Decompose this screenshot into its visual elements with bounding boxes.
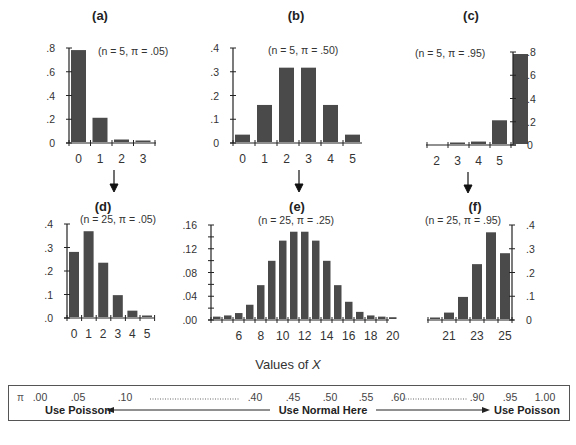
bar (136, 141, 151, 143)
panel-b-params: (n = 5, π = .50) (268, 44, 338, 56)
figure-canvas: (a) (b) (c) (d) (e) (f) (n = 5, π = .05)… (0, 0, 576, 445)
pi-value: .95 (503, 391, 518, 403)
panel-f-plot: .4.3.2.10212325 (427, 219, 535, 343)
bar (213, 317, 221, 319)
y-tick-label: .4 (527, 93, 536, 105)
panel-b-plot: .4.3.2.10012345 (210, 42, 362, 166)
bar (444, 313, 454, 319)
bar (513, 54, 528, 144)
bar (301, 68, 316, 142)
y-tick-label: .3 (44, 242, 53, 254)
y-tick-label: .2 (527, 116, 536, 128)
x-tick-label: 21 (442, 329, 456, 343)
x-tick-label: 5 (349, 152, 356, 166)
y-tick-label: .3 (526, 243, 535, 255)
bar (378, 317, 386, 319)
y-tick-label: 0 (49, 137, 55, 149)
pi-value: .50 (323, 391, 338, 403)
y-tick-label: .16 (182, 219, 197, 231)
y-tick-label: .2 (46, 113, 55, 125)
y-tick-label: .2 (44, 265, 53, 277)
bar (224, 315, 232, 319)
bar (71, 50, 86, 142)
x-tick-label: 2 (100, 327, 107, 341)
bar (450, 143, 465, 145)
pi-value: .05 (71, 391, 86, 403)
panel-c-params: (n = 5, π = .95) (415, 47, 485, 59)
bar (492, 120, 507, 144)
bar (389, 317, 397, 319)
bar (356, 312, 364, 319)
x-tick-label: 16 (342, 329, 356, 343)
bar (279, 68, 294, 142)
bar (142, 316, 152, 318)
bar (334, 285, 342, 319)
y-tick-label: .8 (527, 46, 536, 58)
panel-d-title: (d) (95, 199, 112, 214)
x-tick-label: 4 (327, 152, 334, 166)
pi-value: .60 (391, 391, 406, 403)
x-axis-label: Values of X (255, 357, 322, 372)
y-tick-label: 0 (527, 139, 533, 151)
x-tick-label: 23 (470, 329, 484, 343)
bar (471, 142, 486, 144)
panel-d-params: (n = 25, π = .05) (80, 213, 156, 225)
y-tick-label: .0 (44, 312, 53, 324)
use-normal-here-label: Use Normal Here (279, 404, 368, 416)
plots: .8.6.4.200123.4.3.2.10012345.8.6.4.20234… (44, 42, 536, 343)
bar (323, 261, 331, 319)
arrow-c-to-f (464, 172, 472, 193)
x-tick-label: 0 (239, 152, 246, 166)
y-tick-label: .4 (46, 90, 55, 102)
y-tick-label: 0 (526, 314, 532, 326)
y-tick-label: .04 (182, 290, 197, 302)
panel-a-plot: .8.6.4.200123 (46, 42, 156, 166)
x-tick-label: 14 (320, 329, 334, 343)
bar (93, 118, 108, 142)
y-tick-label: .12 (182, 243, 197, 255)
bar (98, 263, 108, 317)
x-tick-label: 3 (454, 154, 461, 168)
panel-e-plot: .16.12.08.04.0068101214161820 (182, 219, 399, 343)
x-tick-label: 0 (75, 152, 82, 166)
right-arrow (376, 407, 490, 413)
x-tick-label: 1 (85, 327, 92, 341)
y-tick-label: .4 (526, 219, 535, 231)
x-tick-label: 12 (298, 329, 312, 343)
pi-value: .90 (470, 391, 485, 403)
x-tick-label: 4 (129, 327, 136, 341)
pi-value: .55 (359, 391, 374, 403)
bar (367, 315, 375, 319)
y-tick-label: .1 (526, 290, 535, 302)
bar (246, 305, 254, 319)
x-tick-label: 2 (433, 154, 440, 168)
x-tick-label: 5 (144, 327, 151, 341)
bar (472, 264, 482, 319)
bar (235, 135, 250, 142)
panel-a-title: (a) (92, 8, 108, 23)
pi-value: .10 (118, 391, 133, 403)
x-tick-label: 6 (235, 329, 242, 343)
y-tick-label: .2 (526, 267, 535, 279)
bar (113, 295, 123, 317)
bar (345, 135, 360, 142)
bar (268, 261, 276, 319)
bar (235, 313, 243, 319)
pi-value: .45 (286, 391, 301, 403)
bar (345, 302, 353, 319)
x-tick-label: 1 (261, 152, 268, 166)
x-tick-label: 20 (386, 329, 400, 343)
panel-c-title: (c) (463, 8, 479, 23)
y-tick-label: .1 (44, 289, 53, 301)
pi-symbol: π (17, 392, 24, 403)
x-tick-label: 8 (257, 329, 264, 343)
y-tick-label: .00 (182, 314, 197, 326)
y-tick-label: .4 (210, 42, 219, 54)
arrow-a-to-d (110, 170, 118, 192)
x-tick-label: 1 (97, 152, 104, 166)
bar (127, 311, 137, 317)
y-tick-label: .8 (46, 42, 55, 54)
x-tick-label: 3 (140, 152, 147, 166)
bar (301, 232, 309, 319)
y-tick-label: 0 (213, 137, 219, 149)
